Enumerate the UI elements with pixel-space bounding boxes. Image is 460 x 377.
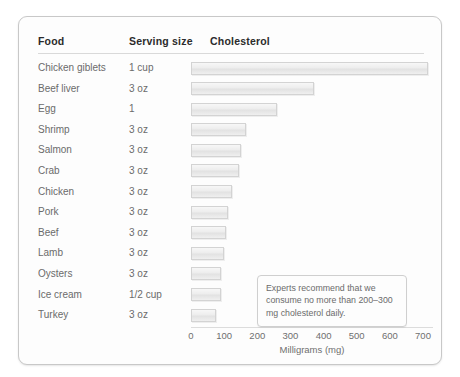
food-name-label: Chicken giblets	[38, 62, 106, 73]
cholesterol-bar	[191, 288, 221, 301]
header-divider	[38, 53, 424, 54]
x-tick-label: 500	[349, 330, 365, 341]
table-row: Chicken3 oz	[19, 183, 441, 204]
table-row: Salmon3 oz	[19, 141, 441, 162]
bar-track	[191, 203, 433, 224]
x-tick-label: 400	[316, 330, 332, 341]
cholesterol-bar	[191, 144, 241, 157]
x-tick-label: 600	[382, 330, 398, 341]
bar-track	[191, 121, 433, 142]
food-name-label: Salmon	[38, 144, 72, 155]
serving-size-label: 3 oz	[129, 83, 148, 94]
food-name-label: Chicken	[38, 186, 74, 197]
bar-track	[191, 162, 433, 183]
table-row: Crab3 oz	[19, 162, 441, 183]
x-axis-line	[191, 327, 433, 328]
food-name-label: Ice cream	[38, 289, 82, 300]
serving-size-label: 3 oz	[129, 247, 148, 258]
food-name-label: Oysters	[38, 268, 72, 279]
bar-track	[191, 141, 433, 162]
bar-track	[191, 59, 433, 80]
table-row: Egg1	[19, 100, 441, 121]
bar-track	[191, 183, 433, 204]
food-name-label: Shrimp	[38, 124, 70, 135]
serving-size-label: 1 cup	[129, 62, 153, 73]
x-axis-title: Milligrams (mg)	[191, 344, 433, 355]
x-tick-label: 200	[249, 330, 265, 341]
serving-size-label: 3 oz	[129, 206, 148, 217]
food-name-label: Turkey	[38, 309, 68, 320]
chart-area: Food Serving size Cholesterol Chicken gi…	[19, 17, 441, 364]
table-row: Beef liver3 oz	[19, 80, 441, 101]
food-name-label: Egg	[38, 103, 56, 114]
cholesterol-bar	[191, 82, 314, 95]
column-header-food: Food	[38, 35, 64, 47]
x-tick-label: 100	[216, 330, 232, 341]
serving-size-label: 3 oz	[129, 268, 148, 279]
cholesterol-chart-card: Food Serving size Cholesterol Chicken gi…	[18, 16, 442, 365]
cholesterol-bar	[191, 309, 216, 322]
serving-size-label: 3 oz	[129, 186, 148, 197]
serving-size-label: 3 oz	[129, 144, 148, 155]
cholesterol-bar	[191, 123, 246, 136]
x-axis-tick-labels: 0100200300400500600700	[191, 330, 433, 344]
table-row: Beef3 oz	[19, 224, 441, 245]
recommendation-note: Experts recommend that we consume no mor…	[257, 275, 407, 327]
bar-track	[191, 244, 433, 265]
table-row: Chicken giblets1 cup	[19, 59, 441, 80]
cholesterol-bar	[191, 164, 239, 177]
x-tick-label: 0	[188, 330, 193, 341]
serving-size-label: 1	[129, 103, 135, 114]
serving-size-label: 1/2 cup	[129, 289, 162, 300]
x-tick-label: 700	[415, 330, 431, 341]
food-name-label: Pork	[38, 206, 59, 217]
cholesterol-bar	[191, 226, 226, 239]
serving-size-label: 3 oz	[129, 124, 148, 135]
serving-size-label: 3 oz	[129, 309, 148, 320]
column-header-cholesterol: Cholesterol	[210, 35, 270, 47]
cholesterol-bar	[191, 247, 224, 260]
table-row: Lamb3 oz	[19, 244, 441, 265]
food-name-label: Beef liver	[38, 83, 80, 94]
cholesterol-bar	[191, 206, 228, 219]
table-row: Pork3 oz	[19, 203, 441, 224]
serving-size-label: 3 oz	[129, 165, 148, 176]
cholesterol-bar	[191, 267, 221, 280]
column-header-serving-size: Serving size	[129, 35, 193, 47]
cholesterol-bar	[191, 62, 428, 75]
table-row: Shrimp3 oz	[19, 121, 441, 142]
serving-size-label: 3 oz	[129, 227, 148, 238]
x-tick-label: 300	[282, 330, 298, 341]
bar-track	[191, 224, 433, 245]
food-name-label: Beef	[38, 227, 59, 238]
food-name-label: Lamb	[38, 247, 63, 258]
bar-track	[191, 80, 433, 101]
food-name-label: Crab	[38, 165, 60, 176]
bar-track	[191, 100, 433, 121]
cholesterol-bar	[191, 185, 232, 198]
cholesterol-bar	[191, 103, 277, 116]
